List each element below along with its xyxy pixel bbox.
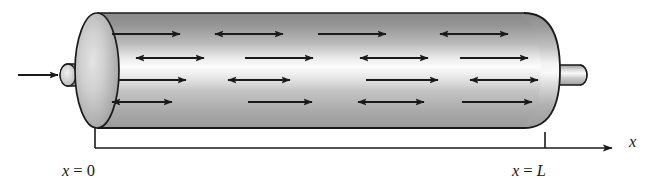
figure-container: x x=0 x=L (0, 0, 647, 182)
label-x-equals-zero-val: 0 (87, 161, 95, 180)
label-x-equals-zero-eq: = (73, 161, 82, 180)
label-x-equals-L-var: x (511, 161, 520, 180)
label-x-equals-L-val: L (536, 161, 546, 180)
inlet-stub-face (60, 64, 76, 86)
label-x-equals-zero-var: x (61, 161, 70, 180)
tube-left-cap (75, 13, 119, 128)
x-axis-label: x (628, 132, 637, 151)
label-x-equals-L: x=L (511, 161, 546, 180)
cylinder-tube (75, 13, 560, 128)
x-axis-group (95, 128, 612, 148)
physics-diagram-cylinder-tube: x x=0 x=L (0, 0, 647, 182)
label-x-equals-zero: x=0 (61, 161, 95, 180)
label-x-equals-L-eq: = (523, 161, 532, 180)
